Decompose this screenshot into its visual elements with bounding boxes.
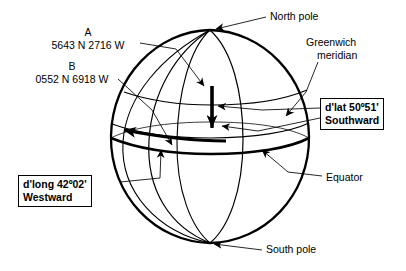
north-pole-label: North pole bbox=[270, 10, 318, 23]
position-a-label: A 5643 N 2716 W bbox=[28, 26, 148, 51]
equator-back bbox=[111, 122, 309, 138]
dlat-value: d'lat 50º51' bbox=[325, 101, 379, 114]
position-b-coordinates: 0552 N 6918 W bbox=[8, 73, 136, 86]
leader-equator bbox=[262, 150, 322, 176]
dlong-callout-box: d'long 42º02' Westward bbox=[18, 175, 92, 207]
dlong-westward-arrow bbox=[124, 130, 226, 141]
position-a-coordinates: 5643 N 2716 W bbox=[28, 39, 148, 52]
leader-dlong bbox=[120, 150, 161, 182]
meridian-a-left bbox=[177, 30, 210, 243]
position-b-name: B bbox=[8, 60, 136, 73]
greenwich-line-1: Greenwich bbox=[306, 36, 356, 48]
diagram-canvas: A 5643 N 2716 W B 0552 N 6918 W North po… bbox=[0, 0, 406, 271]
position-b-label: B 0552 N 6918 W bbox=[8, 60, 136, 85]
dlong-value: d'long 42º02' bbox=[23, 178, 87, 191]
globe-motion-arrows bbox=[124, 86, 226, 141]
south-pole-label: South pole bbox=[266, 243, 316, 256]
greenwich-meridian-label: Greenwich meridian bbox=[306, 36, 368, 62]
dlat-callout-box: d'lat 50º51' Southward bbox=[320, 98, 384, 130]
dlat-direction: Southward bbox=[325, 114, 379, 127]
globe-outline bbox=[111, 30, 309, 243]
dlong-direction: Westward bbox=[23, 191, 87, 204]
parallel-lat-a bbox=[124, 90, 307, 105]
leader-south-pole bbox=[214, 244, 262, 250]
equator-label: Equator bbox=[326, 171, 363, 184]
greenwich-line-2: meridian bbox=[306, 49, 368, 62]
leader-point-a bbox=[140, 43, 204, 86]
leader-north-pole bbox=[216, 17, 266, 29]
position-a-name: A bbox=[28, 26, 148, 39]
greenwich-meridian-line bbox=[210, 30, 243, 243]
